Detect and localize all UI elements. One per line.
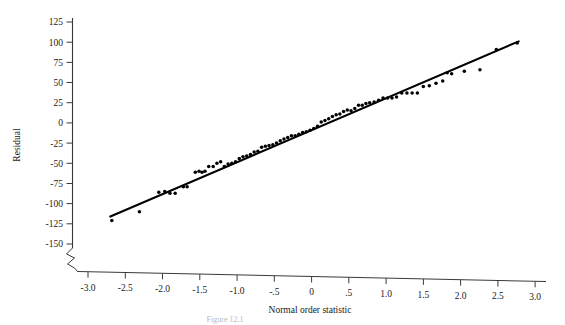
scatter-point	[495, 48, 499, 52]
figure-caption: Figure 12.1	[207, 315, 244, 324]
y-tick-label: -125	[46, 219, 64, 229]
scatter-point	[271, 143, 275, 147]
scatter-point	[323, 119, 327, 123]
y-axis-break-icon	[67, 248, 79, 272]
scatter-point	[327, 117, 331, 121]
scatter-point	[173, 191, 177, 195]
scatter-point	[346, 108, 350, 112]
scatter-point	[286, 136, 290, 140]
scatter-point	[312, 127, 316, 131]
scatter-point	[226, 162, 230, 166]
scatter-point	[194, 170, 198, 174]
x-tick-label: 2.0	[455, 291, 467, 301]
scatter-point	[434, 82, 438, 86]
scatter-point	[215, 162, 219, 166]
scatter-point	[381, 96, 385, 100]
scatter-point	[515, 41, 519, 45]
scatter-point	[241, 155, 245, 159]
scatter-point	[305, 130, 309, 134]
scatter-point	[395, 95, 399, 99]
y-tick-label: -100	[46, 199, 64, 209]
scatter-point	[342, 110, 346, 114]
x-axis-title: Normal order statistic	[269, 305, 352, 315]
x-tick-label: -.5	[269, 287, 280, 297]
scatter-point	[138, 210, 142, 214]
scatter-point	[290, 134, 294, 138]
scatter-point	[319, 120, 323, 124]
x-tick-label: 0	[309, 287, 314, 297]
scatter-point	[279, 139, 283, 143]
scatter-point	[331, 115, 335, 119]
scatter-point	[445, 71, 449, 75]
scatter-point	[185, 185, 189, 189]
scatter-point	[110, 219, 114, 223]
y-tick-label: 25	[54, 98, 64, 108]
x-tick-label: 3.0	[529, 292, 541, 302]
scatter-point	[238, 157, 242, 161]
y-tick-label: -150	[46, 239, 64, 249]
scatter-point	[182, 185, 186, 189]
y-tick-label: 50	[54, 78, 64, 88]
scatter-point	[207, 165, 211, 169]
scatter-point	[478, 68, 482, 72]
scatter-point	[450, 72, 454, 76]
y-tick-label: 100	[49, 38, 64, 48]
scatter-point	[386, 96, 390, 100]
x-axis-tick-labels: -3.0 -2.5 -2.0 -1.5 -1.0 -.5 0 .5 1.0 1.…	[80, 283, 541, 303]
x-tick-label: -1.5	[192, 285, 207, 295]
scatter-point	[357, 103, 361, 107]
scatter-point	[368, 101, 372, 105]
scatter-point	[230, 162, 234, 166]
x-tick-label: 1.0	[380, 289, 392, 299]
scatter-point	[405, 91, 409, 95]
scatter-point	[334, 113, 338, 117]
scatter-point	[293, 134, 297, 138]
scatter-point	[316, 124, 320, 128]
scatter-point	[223, 165, 227, 169]
x-tick-label: -2.0	[155, 284, 170, 294]
scatter-point	[203, 170, 207, 174]
scatter-point	[364, 102, 368, 106]
scatter-point	[372, 100, 376, 104]
y-tick-label: 0	[58, 118, 63, 128]
scatter-point	[260, 145, 264, 149]
x-tick-label: -2.5	[118, 283, 133, 293]
x-tick-label: -3.0	[80, 283, 95, 293]
y-tick-label: -75	[50, 179, 63, 189]
scatter-point	[410, 91, 414, 95]
scatter-point	[360, 103, 364, 107]
scatter-point	[422, 85, 426, 89]
scatter-point	[200, 170, 204, 174]
figure-container: 125 100 75 50 25 0 -25 -50 -75 -100 -125…	[0, 0, 565, 325]
scatter-point	[197, 170, 201, 174]
scatter-point	[349, 109, 353, 113]
scatter-point	[163, 190, 167, 194]
scatter-point	[219, 160, 223, 164]
scatter-point	[297, 132, 301, 136]
scatter-point	[249, 153, 253, 157]
scatter-point	[428, 84, 432, 88]
scatter-point	[301, 131, 305, 135]
y-tick-label: 75	[54, 58, 64, 68]
residual-normal-probability-plot: 125 100 75 50 25 0 -25 -50 -75 -100 -125…	[0, 0, 565, 325]
scatter-point	[245, 154, 249, 158]
y-axis-title: Residual	[12, 128, 22, 162]
x-tick-label: 1.5	[417, 290, 429, 300]
scatter-point	[400, 91, 404, 95]
scatter-point	[211, 165, 215, 169]
scatter-point	[267, 144, 271, 148]
scatter-point	[390, 96, 394, 100]
scatter-point	[416, 91, 420, 95]
y-axis-tick-labels: 125 100 75 50 25 0 -25 -50 -75 -100 -125…	[46, 17, 64, 249]
y-tick-label: -25	[50, 139, 63, 149]
scatter-point	[252, 150, 256, 154]
x-tick-label: 2.5	[492, 291, 504, 301]
x-tick-label: -1.0	[230, 286, 245, 296]
scatter-point	[377, 99, 381, 103]
y-axis-ticks	[67, 22, 73, 244]
scatter-point	[308, 128, 312, 132]
x-tick-label: .5	[345, 288, 352, 298]
scatter-point	[441, 79, 445, 83]
scatter-point	[256, 149, 260, 153]
scatter-point	[234, 160, 238, 164]
